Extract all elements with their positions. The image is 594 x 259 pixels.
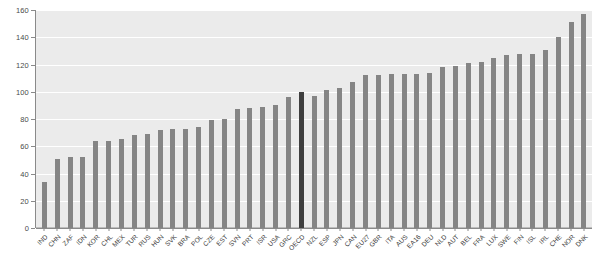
x-axis-tick-label-esp: ESP — [317, 233, 331, 247]
x-axis-tick-mark — [429, 228, 430, 231]
bar-gbr[interactable] — [376, 75, 381, 228]
bar-ind[interactable] — [42, 182, 47, 228]
bar-chn[interactable] — [55, 159, 60, 228]
bar-slot-nor[interactable] — [565, 10, 578, 228]
x-axis-tick-mark — [172, 228, 173, 231]
x-axis-tick-label-nld: NLD — [433, 233, 447, 247]
y-axis-tick-label: 0 — [25, 224, 29, 233]
bar-che[interactable] — [556, 37, 561, 228]
x-axis-tick-mark — [134, 228, 135, 231]
bar-slot-swe[interactable] — [500, 10, 513, 228]
bar-grc[interactable] — [286, 97, 291, 228]
bar-slot-tur[interactable] — [128, 10, 141, 228]
x-axis-tick-mark — [147, 228, 148, 231]
x-axis-tick-label-jpn: JPN — [331, 233, 345, 247]
bar-slot-chn[interactable] — [51, 10, 64, 228]
bar-slot-chl[interactable] — [102, 10, 115, 228]
bar-slot-aus[interactable] — [398, 10, 411, 228]
bar-aus[interactable] — [402, 74, 407, 228]
x-axis-tick-mark — [326, 228, 327, 231]
bar-can[interactable] — [350, 82, 355, 228]
bar-slot-bel[interactable] — [462, 10, 475, 228]
bar-slot-svn[interactable] — [231, 10, 244, 228]
bar-prt[interactable] — [247, 108, 252, 228]
bar-slot-aut[interactable] — [449, 10, 462, 228]
bar-slot-ea16[interactable] — [410, 10, 423, 228]
bar-ita[interactable] — [389, 74, 394, 228]
bar-kor[interactable] — [93, 141, 98, 228]
bar-cze[interactable] — [209, 120, 214, 228]
bar-slot-ind[interactable] — [38, 10, 51, 228]
bar-chl[interactable] — [106, 141, 111, 228]
bar-slot-grc[interactable] — [282, 10, 295, 228]
bar-mex[interactable] — [119, 139, 124, 228]
bar-rus[interactable] — [145, 134, 150, 228]
bar-slot-isl[interactable] — [526, 10, 539, 228]
bar-slot-hun[interactable] — [154, 10, 167, 228]
bar-slot-zaf[interactable] — [64, 10, 77, 228]
bar-slot-can[interactable] — [346, 10, 359, 228]
bar-svn[interactable] — [235, 109, 240, 228]
bar-slot-usa[interactable] — [269, 10, 282, 228]
bar-slot-fra[interactable] — [475, 10, 488, 228]
bar-slot-gbr[interactable] — [372, 10, 385, 228]
bar-slot-pol[interactable] — [192, 10, 205, 228]
bar-aut[interactable] — [453, 66, 458, 228]
bar-slot-ita[interactable] — [385, 10, 398, 228]
bar-slot-deu[interactable] — [423, 10, 436, 228]
bar-bel[interactable] — [466, 63, 471, 228]
bar-nor[interactable] — [569, 22, 574, 228]
bar-nzl[interactable] — [312, 96, 317, 228]
bar-slot-lux[interactable] — [488, 10, 501, 228]
bar-fra[interactable] — [479, 62, 484, 228]
bar-oecd[interactable] — [299, 92, 304, 228]
bar-jpn[interactable] — [337, 88, 342, 228]
bar-fin[interactable] — [517, 54, 522, 228]
bar-slot-jpn[interactable] — [333, 10, 346, 228]
bar-svk[interactable] — [170, 129, 175, 228]
bar-slot-nld[interactable] — [436, 10, 449, 228]
bar-est[interactable] — [222, 119, 227, 228]
bar-slot-oecd[interactable] — [295, 10, 308, 228]
x-axis-tick-mark — [198, 228, 199, 231]
bar-slot-cze[interactable] — [205, 10, 218, 228]
x-axis-tick-mark — [121, 228, 122, 231]
bar-tur[interactable] — [132, 135, 137, 228]
bar-zaf[interactable] — [68, 157, 73, 228]
y-axis-tick-label: 100 — [16, 87, 29, 96]
bar-slot-fin[interactable] — [513, 10, 526, 228]
bar-slot-svk[interactable] — [166, 10, 179, 228]
bar-slot-bra[interactable] — [179, 10, 192, 228]
bar-isl[interactable] — [530, 54, 535, 228]
bar-isr[interactable] — [260, 107, 265, 228]
bar-irl[interactable] — [543, 50, 548, 228]
bar-eu27[interactable] — [363, 75, 368, 228]
bar-slot-eu27[interactable] — [359, 10, 372, 228]
bar-slot-mex[interactable] — [115, 10, 128, 228]
bar-slot-rus[interactable] — [141, 10, 154, 228]
bar-nld[interactable] — [440, 67, 445, 228]
bar-slot-idn[interactable] — [77, 10, 90, 228]
bar-idn[interactable] — [80, 157, 85, 228]
bar-slot-prt[interactable] — [244, 10, 257, 228]
bar-slot-dnk[interactable] — [577, 10, 590, 228]
bar-deu[interactable] — [427, 73, 432, 228]
x-axis-tick-label-zaf: ZAF — [61, 233, 75, 247]
bar-swe[interactable] — [504, 55, 509, 228]
x-axis-tick-mark — [275, 228, 276, 231]
bar-slot-kor[interactable] — [89, 10, 102, 228]
bar-hun[interactable] — [158, 130, 163, 228]
bar-slot-che[interactable] — [552, 10, 565, 228]
bar-bra[interactable] — [183, 129, 188, 228]
bar-dnk[interactable] — [581, 14, 586, 228]
bar-slot-est[interactable] — [218, 10, 231, 228]
bar-pol[interactable] — [196, 127, 201, 228]
bar-usa[interactable] — [273, 105, 278, 228]
bar-slot-isr[interactable] — [256, 10, 269, 228]
bar-slot-irl[interactable] — [539, 10, 552, 228]
bar-esp[interactable] — [324, 90, 329, 228]
bar-slot-esp[interactable] — [321, 10, 334, 228]
bar-slot-nzl[interactable] — [308, 10, 321, 228]
bar-ea16[interactable] — [414, 74, 419, 228]
bar-lux[interactable] — [491, 58, 496, 228]
